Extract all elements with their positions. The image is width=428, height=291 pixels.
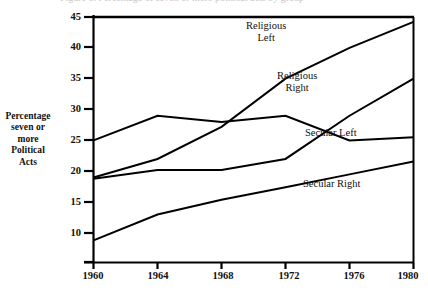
series-line-religious-left	[94, 22, 414, 178]
series-label-secular-left-line-1: Secular Left	[305, 127, 357, 139]
series-label-religious-left-line-2: Left	[246, 32, 286, 44]
series-label-religious-left-line-1: Religious	[246, 20, 286, 32]
series-label-secular-right: Secular Right	[303, 178, 360, 190]
series-label-religious-right: Religious Right	[277, 70, 317, 94]
series-label-religious-right-line-1: Religious	[277, 70, 317, 82]
series-line-secular-right	[94, 161, 414, 240]
chart-figure: Figure 1. Percentage of seven or more po…	[0, 0, 428, 291]
series-lines	[94, 22, 414, 240]
series-label-religious-left: Religious Left	[246, 20, 286, 44]
plot-area	[0, 0, 428, 291]
series-label-secular-left: Secular Left	[305, 127, 357, 139]
series-line-secular-left	[94, 116, 414, 141]
series-label-religious-right-line-2: Right	[277, 82, 317, 94]
series-label-secular-right-line-1: Secular Right	[303, 178, 360, 190]
y-axis-ticks	[84, 17, 93, 262]
